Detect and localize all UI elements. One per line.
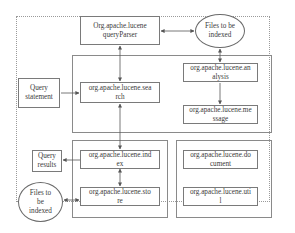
node-store: org.apache.lucene.sto re (80, 187, 160, 206)
node-message: org.apache.lucene.me ssage (183, 105, 258, 124)
node-files-to-be-indexed-bottom: Files to be indexed (18, 182, 63, 222)
node-files-to-be-indexed-top: Files to be indexed (195, 14, 245, 48)
node-search: org.apache.lucene.sea rch (80, 82, 160, 103)
node-document: org.apache.lucene.do cument (183, 150, 258, 169)
node-analysis: org.apache.lucene.an alysis (183, 63, 258, 82)
node-index: org.apache.lucene.ind ex (80, 150, 160, 169)
node-query-results: Query results (32, 150, 62, 172)
node-query-statement: Query statement (18, 78, 60, 108)
node-util: org.apache.lucene.uti l (183, 187, 258, 206)
node-query-parser: Org.apache.lucene queryParser (80, 16, 160, 45)
